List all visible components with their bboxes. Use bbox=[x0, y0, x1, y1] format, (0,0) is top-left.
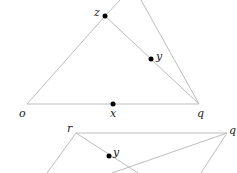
top-figure: z y o x q bbox=[19, 0, 204, 120]
segment-top-q bbox=[141, 0, 199, 104]
segment-q-down-right bbox=[201, 133, 227, 173]
label-y: y bbox=[112, 146, 120, 159]
label-z: z bbox=[93, 6, 100, 19]
segment-o-z bbox=[27, 16, 105, 104]
label-o: o bbox=[19, 107, 26, 120]
label-x: x bbox=[110, 107, 117, 120]
segment-z-up bbox=[105, 0, 120, 16]
label-q: q bbox=[197, 107, 204, 120]
point-y bbox=[149, 57, 154, 62]
label-r: r bbox=[67, 122, 73, 135]
point-y bbox=[107, 154, 112, 159]
bottom-figure: r q y bbox=[47, 122, 236, 173]
label-q: q bbox=[229, 124, 236, 137]
label-y: y bbox=[155, 50, 163, 63]
geometry-diagram: z y o x q r q y bbox=[0, 0, 237, 173]
segment-r-down-left bbox=[47, 133, 76, 173]
segment-q-down-left bbox=[112, 133, 227, 173]
point-z bbox=[103, 14, 108, 19]
point-x bbox=[111, 102, 116, 107]
